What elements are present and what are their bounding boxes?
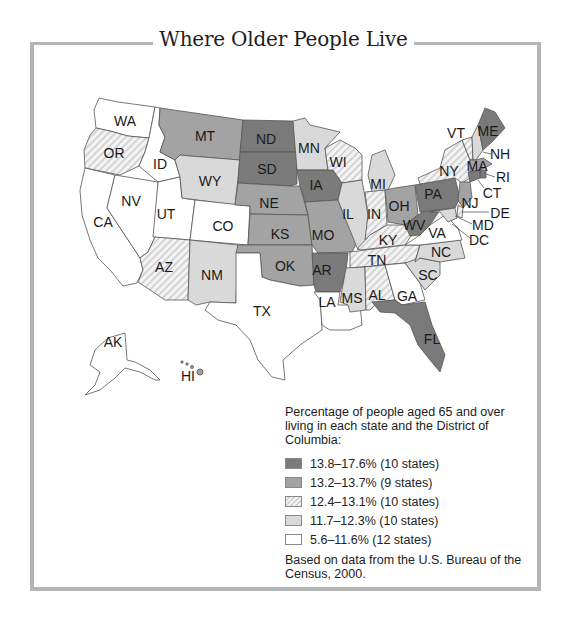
label-MN: MN [298, 140, 320, 156]
label-NE: NE [259, 195, 278, 211]
state-AK [85, 333, 160, 395]
label-FL: FL [424, 331, 441, 347]
label-SD: SD [257, 161, 276, 177]
legend-item: 11.7–12.3% (10 states) [285, 511, 535, 530]
label-OR: OR [104, 145, 125, 161]
legend-label: 12.4–13.1% (10 states) [310, 495, 439, 509]
label-NH: NH [490, 146, 510, 162]
legend: Percentage of people aged 65 and over li… [285, 405, 535, 581]
label-TN: TN [368, 252, 387, 268]
label-SC: SC [418, 267, 437, 283]
label-ME: ME [478, 123, 499, 139]
legend-item: 5.6–11.6% (12 states) [285, 530, 535, 549]
label-WI: WI [329, 154, 346, 170]
label-ID: ID [153, 156, 167, 172]
label-VT: VT [447, 125, 465, 141]
legend-item: 13.8–17.6% (10 states) [285, 454, 535, 473]
label-GA: GA [397, 288, 418, 304]
swatch-white [285, 534, 302, 545]
label-VA: VA [428, 225, 446, 241]
label-MI: MI [370, 176, 386, 192]
label-AK: AK [104, 334, 123, 350]
label-WY: WY [199, 173, 222, 189]
label-AZ: AZ [155, 259, 173, 275]
label-UT: UT [157, 206, 176, 222]
label-MS: MS [342, 290, 363, 306]
label-MO: MO [312, 227, 335, 243]
label-CT: CT [483, 185, 502, 201]
label-IA: IA [309, 177, 323, 193]
swatch-dark [285, 477, 302, 488]
label-DC: DC [469, 232, 489, 248]
label-AL: AL [368, 287, 385, 303]
label-CO: CO [213, 218, 234, 234]
label-LA: LA [318, 294, 336, 310]
label-NJ: NJ [461, 195, 478, 211]
label-KS: KS [271, 226, 290, 242]
label-WV: WV [403, 217, 426, 233]
source-note: Based on data from the U.S. Bureau of th… [285, 553, 535, 581]
label-MD: MD [472, 217, 494, 233]
swatch-hatched [285, 496, 302, 507]
swatch-light [285, 515, 302, 526]
label-NY: NY [439, 163, 459, 179]
label-NV: NV [121, 193, 141, 209]
legend-item: 13.2–13.7% (9 states) [285, 473, 535, 492]
label-OK: OK [275, 258, 296, 274]
label-RI: RI [496, 169, 510, 185]
label-NC: NC [431, 244, 451, 260]
legend-label: 13.8–17.6% (10 states) [310, 457, 439, 471]
label-WA: WA [114, 113, 137, 129]
legend-intro: Percentage of people aged 65 and over li… [285, 405, 535, 447]
label-CA: CA [93, 214, 113, 230]
label-HI: HI [181, 368, 195, 384]
legend-label: 11.7–12.3% (10 states) [310, 514, 438, 528]
label-AR: AR [312, 262, 331, 278]
label-NM: NM [201, 267, 223, 283]
label-TX: TX [253, 303, 272, 319]
swatch-darkest [285, 458, 302, 469]
label-IL: IL [342, 206, 354, 222]
label-PA: PA [424, 186, 442, 202]
label-ND: ND [256, 131, 276, 147]
label-MA: MA [467, 158, 489, 174]
label-IN: IN [367, 206, 381, 222]
label-MT: MT [195, 128, 216, 144]
legend-label: 5.6–11.6% (12 states) [310, 533, 431, 547]
label-KY: KY [379, 232, 398, 248]
label-OH: OH [389, 198, 410, 214]
legend-label: 13.2–13.7% (9 states) [310, 476, 432, 490]
legend-item: 12.4–13.1% (10 states) [285, 492, 535, 511]
